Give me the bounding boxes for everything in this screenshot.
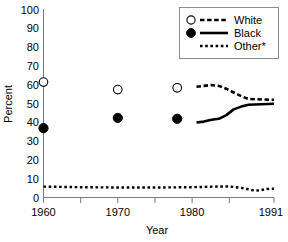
legend-marker-black <box>187 29 196 38</box>
chart-legend: White Black Other* <box>180 8 279 59</box>
data-point-black-1978 <box>173 114 182 123</box>
x-tick-label-1991: 1991 <box>259 206 283 218</box>
y-tick-label-50: 50 <box>27 98 39 110</box>
y-tick-label-40: 40 <box>27 116 39 128</box>
chart-container: 100 90 80 70 60 50 40 30 20 10 0 1960 19… <box>0 0 288 242</box>
legend-label-white: White <box>234 14 262 26</box>
y-tick-label-0: 0 <box>33 192 39 204</box>
series-markers-black <box>39 113 182 133</box>
x-tick-label-1960: 1960 <box>31 206 55 218</box>
data-point-white-1960 <box>39 78 48 87</box>
y-tick-label-70: 70 <box>27 60 39 72</box>
data-point-white-1978 <box>173 84 182 93</box>
legend-marker-white <box>187 16 195 24</box>
line-chart: 100 90 80 70 60 50 40 30 20 10 0 1960 19… <box>0 0 288 242</box>
y-tick-label-60: 60 <box>27 79 39 91</box>
legend-label-other: Other* <box>234 40 267 52</box>
data-point-black-1960 <box>39 124 48 133</box>
y-axis-title: Percent <box>2 85 14 123</box>
series-line-other <box>44 186 275 190</box>
y-tick-label-10: 10 <box>27 173 39 185</box>
series-markers-white <box>39 78 181 94</box>
data-point-white-1970 <box>114 85 123 94</box>
y-tick-label-100: 100 <box>21 4 39 16</box>
y-tick-label-30: 30 <box>27 135 39 147</box>
x-tick-label-1980: 1980 <box>180 206 204 218</box>
data-point-black-1970 <box>113 113 122 122</box>
series-line-black <box>197 104 275 123</box>
x-axis-ticks <box>44 198 275 204</box>
y-tick-label-20: 20 <box>27 154 39 166</box>
legend-label-black: Black <box>234 27 261 39</box>
x-axis-title: Year <box>146 224 169 236</box>
y-tick-label-90: 90 <box>27 22 39 34</box>
y-tick-label-80: 80 <box>27 41 39 53</box>
x-tick-label-1970: 1970 <box>106 206 130 218</box>
series-line-white <box>197 85 275 100</box>
